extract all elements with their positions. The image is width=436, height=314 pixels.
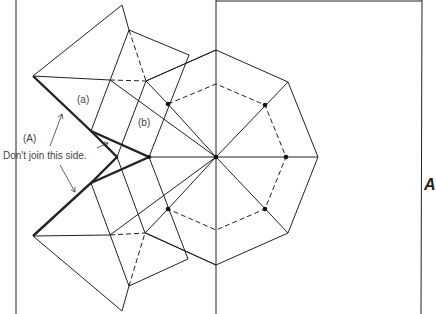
label-a: (a)	[77, 94, 89, 105]
upper-triangle	[33, 5, 129, 76]
upper-rect-b	[129, 30, 189, 157]
label-b: (b)	[138, 117, 150, 128]
label-A: (A)	[23, 133, 36, 144]
lower-rect	[129, 157, 188, 286]
note-dont-join: Don't join this side.	[3, 150, 87, 161]
right-border	[421, 0, 422, 314]
edge-glyph: A	[424, 176, 436, 194]
